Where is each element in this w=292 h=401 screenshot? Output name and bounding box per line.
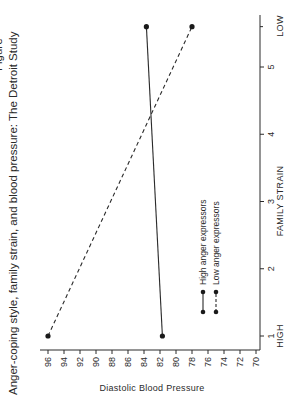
data-point [189, 24, 194, 29]
y-tick-label: 78 [187, 357, 197, 367]
y-tick-label: 86 [123, 357, 133, 367]
legend: High anger expressors Low anger expresso… [198, 199, 221, 314]
data-point [160, 333, 165, 338]
y-tick-label: 70 [251, 357, 261, 367]
y-tick-label: 74 [219, 357, 229, 367]
legend-item-high: High anger expressors [198, 199, 208, 314]
rotated-figure: Figure Anger-coping style, family strain… [0, 0, 292, 401]
y-axis-label: Diastolic Blood Pressure [99, 383, 204, 393]
data-series [45, 24, 194, 339]
y-tick-label: 82 [155, 357, 165, 367]
y-tick-label: 76 [203, 357, 213, 367]
y-tick-label: 72 [235, 357, 245, 367]
y-tick-label: 84 [139, 357, 149, 367]
legend-label-low: Low anger expressors [211, 201, 221, 285]
y-tick-label: 80 [171, 357, 181, 367]
x-tick-label: 2 [266, 266, 276, 271]
legend-label-high: High anger expressors [198, 199, 208, 285]
chart-title: Anger-coping style, family strain, and b… [7, 31, 19, 395]
legend-item-low: Low anger expressors [211, 201, 221, 314]
y-tick-label: 94 [59, 357, 69, 367]
y-tick-label: 88 [107, 357, 117, 367]
x-end-label-low: LOW [275, 15, 285, 37]
figure-label-cut: Figure [0, 38, 4, 71]
data-point [144, 24, 149, 29]
y-tick-label: 90 [91, 357, 101, 367]
y-tick-label: 96 [43, 357, 53, 367]
y-axis: 7072747678808284868890929496 [40, 350, 261, 367]
data-point [45, 333, 50, 338]
x-axis: 12345 [260, 15, 276, 350]
chart: Figure Anger-coping style, family strain… [0, 0, 292, 401]
x-tick-label: 5 [266, 64, 276, 69]
x-tick-label: 4 [266, 132, 276, 137]
x-end-label-high: HIGH [275, 324, 285, 348]
series-high-anger [144, 24, 165, 339]
x-axis-label: FAMILY STRAIN [275, 166, 285, 237]
series-low-anger [45, 24, 194, 339]
y-tick-label: 92 [75, 357, 85, 367]
